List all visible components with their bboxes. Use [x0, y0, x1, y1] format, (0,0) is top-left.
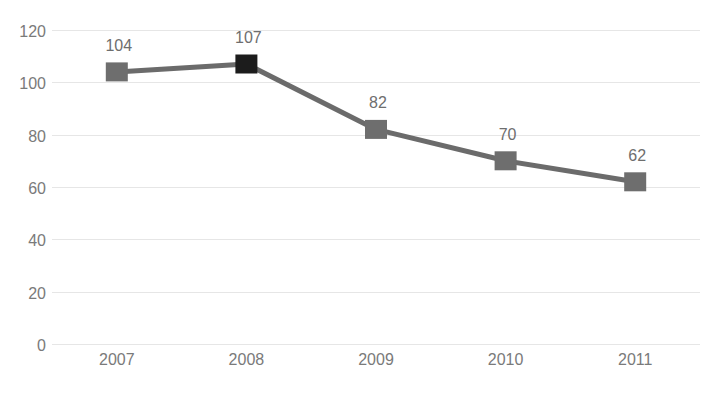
y-axis: 120 100 80 60 40 20 0	[0, 30, 46, 344]
x-tick-2008: 2008	[201, 352, 291, 368]
y-tick-0: 0	[0, 338, 46, 354]
gridline-60	[52, 187, 700, 188]
gridline-100	[52, 82, 700, 83]
gridline-120	[52, 30, 700, 31]
data-label-2008: 107	[213, 30, 283, 46]
gridline-40	[52, 239, 700, 240]
data-label-2007: 104	[84, 38, 154, 54]
data-label-2009: 82	[343, 95, 413, 111]
y-tick-60: 60	[0, 181, 46, 197]
data-label-2011: 62	[602, 148, 672, 164]
y-tick-20: 20	[0, 286, 46, 302]
x-tick-2011: 2011	[590, 352, 680, 368]
x-axis: 2007 2008 2009 2010 2011	[52, 352, 700, 382]
line-chart: 120 100 80 60 40 20 0 104 107 82 70 62 2…	[0, 0, 708, 393]
y-tick-120: 120	[0, 24, 46, 40]
x-tick-2009: 2009	[331, 352, 421, 368]
y-tick-80: 80	[0, 129, 46, 145]
gridline-80	[52, 135, 700, 136]
chart-title	[0, 0, 708, 2]
plot-area	[52, 30, 700, 344]
y-tick-100: 100	[0, 76, 46, 92]
gridline-0	[52, 344, 700, 345]
gridline-20	[52, 292, 700, 293]
x-tick-2010: 2010	[461, 352, 551, 368]
data-label-2010: 70	[473, 127, 543, 143]
y-tick-40: 40	[0, 233, 46, 249]
x-tick-2007: 2007	[72, 352, 162, 368]
